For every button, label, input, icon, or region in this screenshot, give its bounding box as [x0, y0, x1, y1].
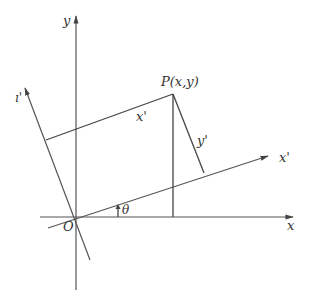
angle-label: θ: [122, 203, 130, 217]
y-prime-axis: [25, 88, 90, 260]
origin-label: O: [63, 219, 74, 234]
point-label: P(x,y): [160, 74, 199, 89]
y-prime-segment-label: y': [196, 133, 208, 148]
x-prime-segment-label: x': [136, 109, 147, 124]
rotated-axes-diagram: y x x' ı' O θ P(x,y) x' y': [0, 0, 313, 301]
x-prime-axis-label: x': [279, 150, 290, 165]
x-prime-projection-line: [46, 94, 173, 140]
x-axis-label: x: [287, 218, 295, 233]
y-prime-axis-label: ı': [15, 91, 22, 105]
y-axis-label: y: [62, 13, 71, 28]
